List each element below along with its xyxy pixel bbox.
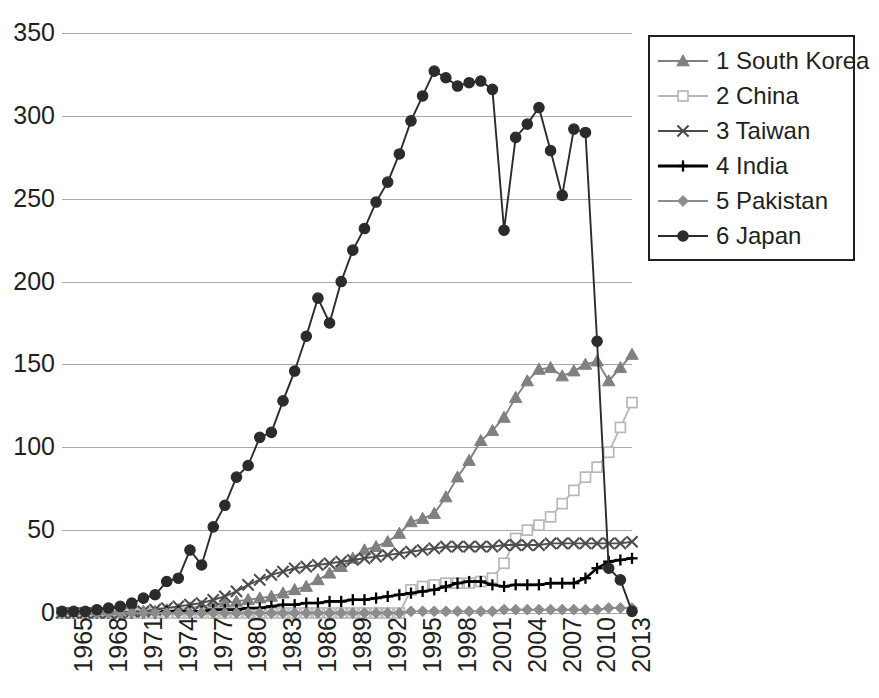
x-tick-label: 1992	[385, 617, 410, 673]
gridline	[62, 613, 632, 614]
x-cross-icon	[657, 118, 709, 144]
x-tick-label: 2001	[490, 617, 515, 673]
legend-item-label: 3 Taiwan	[716, 118, 810, 144]
plot-area	[62, 33, 632, 613]
x-tick-label: 2004	[525, 617, 550, 673]
legend-item-pakistan[interactable]: 5 Pakistan	[650, 183, 853, 218]
gridline	[62, 199, 632, 200]
x-tick-label: 1974	[176, 617, 201, 673]
legend-item-south-korea[interactable]: 1 South Korea	[650, 43, 853, 78]
legend-item-label: 5 Pakistan	[716, 188, 828, 214]
legend-item-label: 1 South Korea	[716, 48, 869, 74]
gridline	[62, 530, 632, 531]
gridline	[62, 282, 632, 283]
legend-item-taiwan[interactable]: 3 Taiwan	[650, 113, 853, 148]
y-tick-label: 350	[13, 20, 55, 45]
x-tick-label: 1980	[245, 617, 270, 673]
x-tick-label: 1998	[455, 617, 480, 673]
x-tick-label: 1986	[315, 617, 340, 673]
x-tick-label: 1989	[350, 617, 375, 673]
legend-item-china[interactable]: 2 China	[650, 78, 853, 113]
legend-item-label: 4 India	[716, 153, 788, 179]
open-square-marker-icon	[678, 91, 688, 101]
legend-item-japan[interactable]: 6 Japan	[650, 218, 853, 253]
triangle-icon	[657, 48, 709, 74]
x-tick-label: 1971	[141, 617, 166, 673]
y-tick-label: 200	[13, 269, 55, 294]
x-tick-label: 1983	[280, 617, 305, 673]
chart-legend: 1 South Korea2 China3 Taiwan4 India5 Pak…	[648, 35, 855, 261]
x-tick-label: 1977	[211, 617, 236, 673]
diamond-marker-icon	[678, 195, 689, 206]
y-tick-label: 250	[13, 186, 55, 211]
diamond-icon	[657, 188, 709, 214]
plus-icon	[657, 153, 709, 179]
y-tick-label: 300	[13, 103, 55, 128]
chart-page: 050100150200250300350 196519681971197419…	[0, 0, 879, 698]
x-tick-label: 2007	[560, 617, 585, 673]
y-axis: 050100150200250300350	[0, 0, 55, 698]
plus-marker-icon	[677, 160, 688, 171]
gridline	[62, 447, 632, 448]
gridline	[62, 364, 632, 365]
x-tick-label: 2010	[594, 617, 619, 673]
x-axis: 1965196819711974197719801983198619891992…	[62, 617, 632, 698]
gridline	[62, 116, 632, 117]
legend-item-label: 6 Japan	[716, 223, 801, 249]
circle-marker-icon	[678, 230, 688, 240]
x-tick-label: 2013	[629, 617, 654, 673]
x-tick-label: 1965	[71, 617, 96, 673]
legend-item-india[interactable]: 4 India	[650, 148, 853, 183]
legend-item-label: 2 China	[716, 83, 799, 109]
y-tick-label: 0	[41, 600, 55, 625]
circle-icon	[657, 223, 709, 249]
open-square-icon	[657, 83, 709, 109]
x-tick-label: 1968	[106, 617, 131, 673]
y-tick-label: 50	[27, 517, 55, 542]
y-tick-label: 100	[13, 434, 55, 459]
x-tick-label: 1995	[420, 617, 445, 673]
y-tick-label: 150	[13, 351, 55, 376]
gridline	[62, 33, 632, 34]
